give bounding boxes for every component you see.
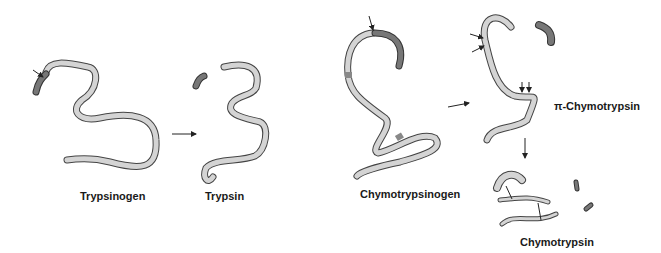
trypsinogen-label: Trypsinogen xyxy=(80,190,145,202)
chymotrypsinogen-chain xyxy=(345,33,437,176)
pi-chymotrypsin-chain xyxy=(484,18,551,140)
trypsin-chain xyxy=(196,65,266,180)
cleavage-arrow xyxy=(33,70,43,77)
pi-chymotrypsin-label: π-Chymotrypsin xyxy=(554,100,640,112)
trypsinogen-chain xyxy=(36,63,156,166)
trypsin-label: Trypsin xyxy=(205,190,244,202)
zymogen-activation-diagram xyxy=(0,0,661,253)
chymotrypsin-label: Chymotrypsin xyxy=(520,236,594,248)
chymotrypsin-chains xyxy=(497,175,591,224)
reaction-arrow xyxy=(448,103,469,107)
cleavage-arrow xyxy=(369,16,373,30)
cleavage-arrow xyxy=(472,46,484,52)
chymotrypsinogen-label: Chymotrypsinogen xyxy=(360,188,460,200)
